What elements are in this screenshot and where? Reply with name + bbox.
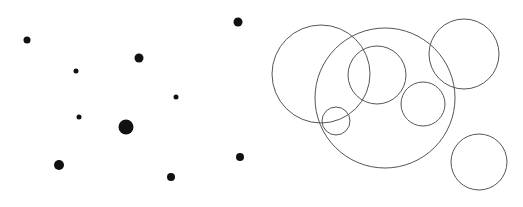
outline-circle [451,134,507,190]
outline-circle [272,25,370,123]
filled-dot [174,95,179,100]
filled-dot [234,18,243,27]
outlined-circles-panel [272,19,507,190]
outline-circle [401,82,445,126]
outline-circle [348,46,406,104]
filled-dot [24,37,31,44]
filled-dots-panel [24,18,245,182]
filled-dot [74,69,79,74]
filled-dot [119,120,134,135]
outline-circle [315,28,455,168]
filled-dot [167,173,175,181]
filled-dot [54,160,64,170]
filled-dot [135,54,144,63]
filled-dot [77,115,82,120]
dots-and-circles-diagram [0,0,523,207]
filled-dot [236,153,244,161]
